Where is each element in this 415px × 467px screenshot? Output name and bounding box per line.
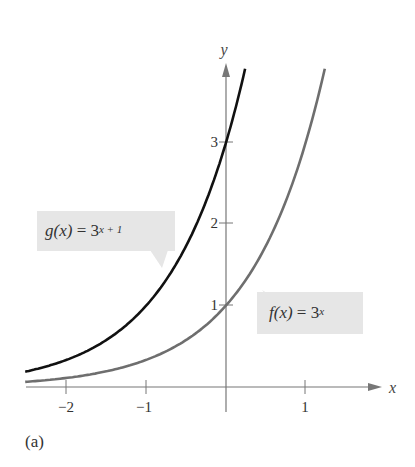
f-base: 3 <box>311 303 320 322</box>
x-tick-label: −2 <box>58 399 74 415</box>
x-axis-label: x <box>388 379 396 396</box>
f-exp: x <box>319 305 324 317</box>
y-axis-label: y <box>218 41 228 59</box>
x-tick-label: −1 <box>136 399 152 415</box>
y-tick-label: 1 <box>211 297 219 313</box>
x-axis-arrow-icon <box>368 383 382 391</box>
g-exp: x + 1 <box>99 223 122 235</box>
y-tick-label: 2 <box>211 215 219 231</box>
f-function-label: f(x) = 3x <box>257 292 363 334</box>
g-eq: = <box>77 221 87 240</box>
figure-caption: (a) <box>25 432 44 452</box>
y-tick-label: 3 <box>211 134 219 150</box>
f-arg: (x) <box>274 303 293 322</box>
y-axis-arrow-icon <box>222 63 230 77</box>
g-label-pointer <box>150 250 168 268</box>
g-name: g <box>45 221 54 240</box>
g-function-label: g(x) = 3x + 1 <box>37 211 175 251</box>
g-base: 3 <box>90 221 99 240</box>
x-tick-label: 1 <box>301 399 309 415</box>
g-arg: (x) <box>54 221 73 240</box>
f-eq: = <box>297 303 307 322</box>
